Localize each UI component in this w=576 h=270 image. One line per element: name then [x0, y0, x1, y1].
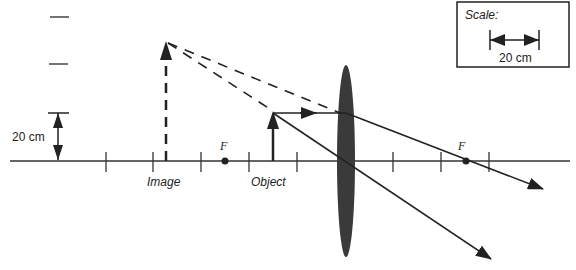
- height-marker-label: 20 cm: [12, 130, 45, 144]
- ray-diagram: 20 cm F F Image Object: [0, 0, 576, 270]
- height-ticks: [49, 17, 69, 64]
- virtual-ray-extensions: [168, 43, 340, 113]
- image-arrow: [160, 41, 172, 161]
- axis-ticks: [106, 152, 489, 172]
- scale-title: Scale:: [465, 8, 498, 22]
- scale-length-label: 20 cm: [499, 51, 532, 65]
- object-label: Object: [251, 175, 286, 189]
- focal-point-left: [222, 158, 229, 165]
- scale-box: Scale: 20 cm: [457, 2, 569, 67]
- ray-center: [273, 113, 491, 259]
- height-marker: 20 cm: [12, 113, 69, 160]
- focal-label-right: F: [457, 139, 466, 153]
- image-label: Image: [147, 175, 181, 189]
- object-arrow: [267, 111, 279, 161]
- focal-label-left: F: [219, 139, 228, 153]
- ray-parallel: [273, 113, 543, 189]
